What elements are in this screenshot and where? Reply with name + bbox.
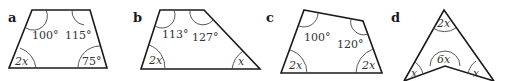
figure-a-label: a <box>8 10 17 25</box>
figure-a-arc-top-right <box>72 10 84 25</box>
figure-c-angle-bottom-left: 2x <box>288 59 303 72</box>
figure-b-angle-top-left: 113° <box>162 28 189 41</box>
figure-d-angle-bottom-left: x <box>411 67 418 80</box>
figure-b-arc-top-left <box>155 10 175 28</box>
figure-d-label: d <box>391 10 400 25</box>
figure-d-angle-reflex: 6x <box>437 53 451 66</box>
figure-d-inner-edges <box>404 66 494 81</box>
figure-a-arc-top-left <box>26 10 47 30</box>
figure-a-angle-top-left: 100° <box>32 29 59 42</box>
figure-c: c 100° 120° 2x 2x <box>266 10 382 73</box>
figure-b-angle-top-right: 127° <box>192 31 219 44</box>
figure-b: b 113° 127° 2x x <box>133 10 260 69</box>
figure-d-angle-bottom-right: x <box>473 67 480 80</box>
figure-d: d 2x 6x x x <box>391 10 494 81</box>
figure-a-angle-bottom-right: 75° <box>82 55 102 68</box>
figure-a-angle-top-right: 115° <box>65 29 92 42</box>
figure-a-angle-bottom-left: 2x <box>14 55 29 68</box>
figure-c-label: c <box>266 10 274 25</box>
figure-c-angle-top-right: 120° <box>337 38 364 51</box>
quadrilateral-figures: a 100° 115° 2x 75° b 113° 127° 2x x c 10… <box>0 0 506 81</box>
figure-b-angle-bottom-right: x <box>238 55 245 68</box>
figure-b-label: b <box>133 10 142 25</box>
figure-a: a 100° 115° 2x 75° <box>8 10 107 68</box>
figure-c-angle-bottom-right: 2x <box>361 59 376 72</box>
figure-b-angle-bottom-left: 2x <box>148 54 163 67</box>
figure-c-angle-top-left: 100° <box>304 31 331 44</box>
figure-b-arc-top-right <box>190 10 213 25</box>
figure-d-angle-apex: 2x <box>436 17 451 30</box>
